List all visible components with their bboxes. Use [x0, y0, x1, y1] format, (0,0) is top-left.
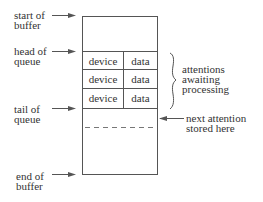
head-of-queue-arrow: [52, 49, 76, 54]
label-line: queue: [14, 114, 40, 124]
label-line: stored here: [186, 123, 246, 133]
row-2-data: data: [124, 70, 157, 88]
next-attention-label: next attention stored here: [186, 113, 246, 133]
start-of-buffer-label: start of buffer: [14, 10, 45, 30]
row-1-data: data: [124, 52, 157, 70]
label-line: buffer: [14, 20, 45, 30]
brace-icon: [170, 53, 176, 109]
next-attention-arrow: [159, 116, 184, 121]
label-line: queue: [14, 56, 47, 66]
attentions-awaiting-label: attentions awaiting processing: [182, 64, 229, 94]
row-2-device: device: [83, 70, 123, 88]
label-line: buffer: [16, 181, 44, 191]
end-of-buffer-label: end of buffer: [16, 171, 44, 191]
head-of-queue-label: head of queue: [14, 46, 47, 66]
tail-of-queue-arrow: [52, 106, 76, 111]
end-of-buffer-arrow: [52, 172, 76, 177]
tail-of-queue-label: tail of queue: [14, 104, 40, 124]
row-1-device: device: [83, 52, 123, 70]
label-line: processing: [182, 84, 229, 94]
row-3-data: data: [124, 89, 157, 107]
row-3-device: device: [83, 89, 123, 107]
start-of-buffer-arrow: [52, 13, 76, 18]
